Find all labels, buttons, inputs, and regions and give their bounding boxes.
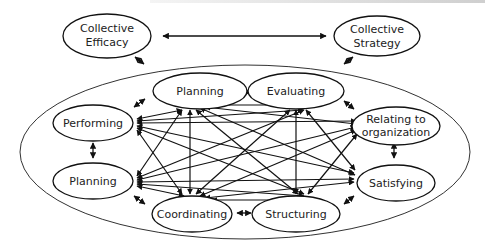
svg-text:Collective: Collective [350, 23, 404, 36]
svg-text:Planning: Planning [176, 85, 223, 98]
efficacy-system-arrow [135, 57, 144, 64]
node-collective-strategy: Collective Strategy [334, 16, 420, 56]
svg-text:Strategy: Strategy [353, 37, 401, 50]
strategy-system-arrow [344, 57, 353, 64]
svg-text:Relating to: Relating to [366, 113, 426, 126]
node-relating-to-organization: Relating to organization [352, 107, 440, 145]
svg-text:Coordinating: Coordinating [157, 208, 228, 221]
svg-text:Structuring: Structuring [265, 208, 327, 221]
svg-text:Satisfying: Satisfying [369, 177, 423, 190]
node-collective-efficacy: Collective Efficacy [63, 14, 151, 58]
mesh-arrows [137, 105, 357, 200]
node-satisfying: Satisfying [357, 165, 435, 201]
node-coordinating: Coordinating [152, 196, 232, 232]
svg-text:Collective: Collective [80, 22, 134, 35]
process-diagram: Collective Efficacy Collective Strategy … [0, 0, 485, 251]
svg-text:organization: organization [362, 126, 430, 139]
node-planning-left: Planning [53, 163, 133, 199]
svg-text:Efficacy: Efficacy [86, 36, 129, 49]
svg-text:Performing: Performing [63, 117, 123, 130]
node-performing: Performing [53, 105, 133, 141]
adjacent-arrows [93, 92, 394, 213]
node-structuring: Structuring [252, 196, 340, 232]
node-planning-top: Planning [153, 73, 247, 109]
svg-text:Evaluating: Evaluating [267, 85, 325, 98]
node-evaluating: Evaluating [248, 73, 344, 109]
svg-text:Planning: Planning [69, 175, 116, 188]
